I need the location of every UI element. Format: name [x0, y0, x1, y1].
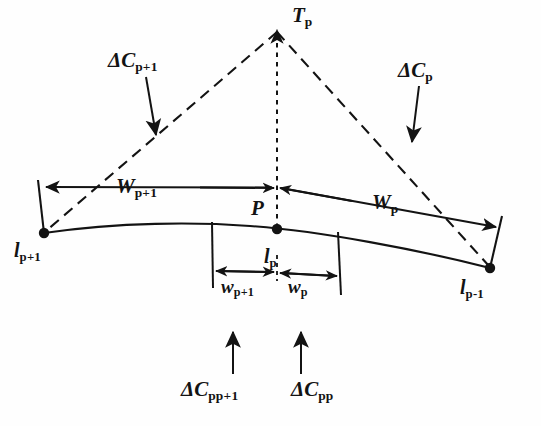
label-delta-c-p-plus-1: ΔCp+1	[108, 50, 158, 73]
extension-line-right	[338, 232, 341, 295]
label-node-center-subscript: p	[270, 256, 277, 270]
label-delta-c-p-plus-1-subscript: p+1	[135, 59, 157, 74]
tick-right-node	[490, 216, 502, 268]
leader-arrow-dcp	[412, 86, 419, 142]
dashed-edge-left	[46, 32, 277, 231]
node-dot-right	[485, 263, 495, 273]
label-node-right-lpm1: lp-1	[460, 277, 484, 300]
small-width-left-arrow-b	[218, 271, 274, 272]
label-small-width-left-subscript: p+1	[234, 285, 254, 299]
figure-canvas: Tp ΔCp+1 ΔCp Wp+1 Wp P lp+1 lp lp-1 wp+1…	[0, 0, 541, 426]
label-apex-subscript: p	[305, 14, 313, 29]
width-left-inner-arrow	[200, 188, 274, 189]
label-delta-c-p: ΔCp	[398, 60, 433, 83]
label-point-P: P	[251, 198, 264, 219]
label-node-center-lp: lp	[264, 246, 277, 269]
label-delta-c-pp-plus-1: ΔCpp+1	[181, 379, 238, 402]
label-node-left-subscript: p+1	[20, 250, 41, 264]
label-node-right-subscript: p-1	[466, 287, 484, 301]
label-width-right-Wp: Wp	[372, 192, 398, 215]
label-small-width-right-wp: wp	[288, 277, 308, 299]
node-dot-center	[272, 224, 282, 234]
label-delta-c-p-subscript: p	[425, 69, 433, 84]
dashed-edge-right	[277, 32, 489, 266]
label-delta-c-pp: ΔCpp	[291, 379, 334, 402]
node-dot-left	[39, 228, 49, 238]
label-node-left-lp1: lp+1	[14, 240, 41, 263]
label-width-left-Wp1: Wp+1	[116, 176, 157, 199]
label-width-left-subscript: p+1	[135, 185, 157, 200]
label-delta-c-pp-subscript: pp	[318, 388, 333, 403]
label-width-right-subscript: p	[391, 201, 399, 216]
label-apex-Tp: Tp	[292, 5, 313, 28]
label-small-width-left-wp1: wp+1	[221, 277, 254, 299]
width-right-inner-arrow	[280, 188, 352, 201]
label-point-P-symbol: P	[251, 196, 264, 220]
label-delta-c-pp-plus-1-subscript: pp+1	[208, 388, 238, 403]
diagram-svg	[0, 0, 541, 426]
leader-arrow-dcp1	[146, 77, 156, 135]
tick-left-node	[38, 180, 44, 233]
extension-line-left	[212, 222, 213, 288]
label-small-width-right-subscript: p	[301, 285, 308, 299]
